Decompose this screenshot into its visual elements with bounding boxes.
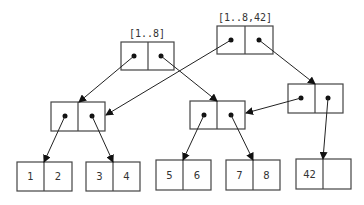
root-node-1-8-42 — [217, 26, 273, 54]
leaf-value: 5 — [166, 170, 172, 181]
leaf-value: 8 — [263, 170, 269, 181]
leaf-node-7-8: 7 8 — [226, 160, 280, 190]
leaf-node-3-4: 3 4 — [86, 162, 140, 191]
leaf-value: 2 — [55, 171, 61, 182]
leaf-value: 4 — [123, 171, 129, 182]
leaf-node-42: 42 — [296, 159, 351, 189]
leaf-value: 42 — [303, 169, 316, 180]
root-label-1-8: [1..8] — [129, 28, 165, 39]
edge-arrow — [161, 56, 217, 101]
root-label-1-8-42: [1..8,42] — [218, 12, 272, 23]
internal-node-middle — [190, 101, 245, 129]
edges — [44, 40, 328, 162]
leaf-value: 1 — [27, 171, 33, 182]
leaf-value: 3 — [96, 171, 102, 182]
root-node-1-8 — [121, 42, 174, 70]
leaf-node-5-6: 5 6 — [156, 160, 211, 190]
leaf-node-1-2: 1 2 — [17, 162, 72, 191]
edge-arrow — [259, 40, 315, 84]
tree-diagram: [1..8] [1..8,42] 1 2 — [0, 0, 364, 205]
edge-arrow — [79, 56, 134, 102]
leaf-value: 6 — [194, 170, 200, 181]
leaf-value: 7 — [236, 170, 242, 181]
internal-node-right — [288, 84, 343, 113]
